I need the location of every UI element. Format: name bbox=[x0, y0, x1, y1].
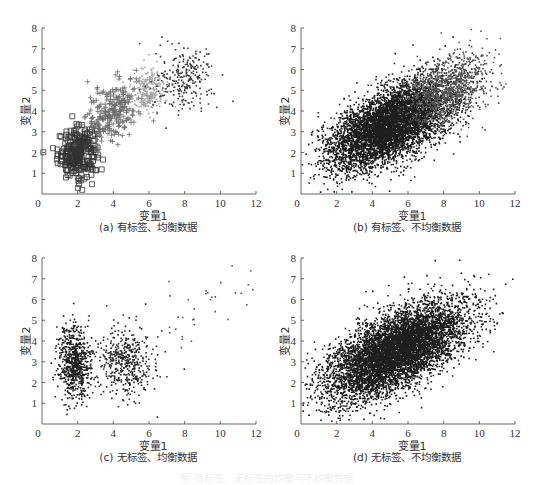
x-tick-label: 6 bbox=[146, 197, 152, 209]
x-tick-label: 10 bbox=[474, 427, 486, 439]
y-tick-label: 1 bbox=[32, 397, 38, 409]
x-tick-label: 10 bbox=[215, 427, 227, 439]
x-tick-label: 4 bbox=[370, 197, 376, 209]
y-tick-label: 7 bbox=[291, 273, 297, 285]
y-tick-label: 5 bbox=[32, 314, 38, 326]
y-tick-label: 1 bbox=[291, 397, 297, 409]
y-tick-label: 1 bbox=[291, 167, 297, 179]
x-tick-label: 0 bbox=[294, 427, 300, 439]
x-tick-label: 0 bbox=[35, 197, 41, 209]
y-tick-label: 5 bbox=[32, 84, 38, 96]
scatter-plot-a: 02468101212345678变量1变量2 bbox=[0, 0, 267, 240]
series-dot bbox=[302, 36, 494, 193]
y-tick-label: 8 bbox=[291, 22, 297, 34]
x-tick-label: 0 bbox=[35, 427, 41, 439]
y-tick-label: 7 bbox=[32, 43, 38, 55]
y-tick-label: 3 bbox=[32, 126, 38, 138]
axes: 02468101212345678变量1变量2 bbox=[19, 22, 262, 223]
y-tick-label: 7 bbox=[291, 43, 297, 55]
x-tick-label: 0 bbox=[294, 197, 300, 209]
data-points bbox=[302, 260, 513, 423]
x-tick-label: 2 bbox=[75, 427, 81, 439]
scatter-plot-d: 02468101212345678变量1变量2 bbox=[259, 230, 526, 470]
data-points bbox=[50, 265, 253, 418]
y-axis-title: 变量2 bbox=[19, 327, 33, 356]
panel-caption-d: (d) 无标签、不均衡数据 bbox=[353, 449, 461, 464]
data-points bbox=[302, 29, 507, 193]
y-tick-label: 1 bbox=[32, 167, 38, 179]
y-tick-label: 7 bbox=[32, 273, 38, 285]
x-tick-label: 6 bbox=[405, 427, 411, 439]
y-tick-label: 5 bbox=[291, 314, 297, 326]
series-dot bbox=[90, 303, 185, 418]
series-dot bbox=[50, 303, 97, 416]
x-tick-label: 8 bbox=[182, 427, 188, 439]
x-tick-label: 6 bbox=[405, 197, 411, 209]
x-tick-label: 4 bbox=[370, 427, 376, 439]
scatter-plot-c: 02468101212345678变量1变量2 bbox=[0, 230, 267, 470]
data-points bbox=[41, 36, 234, 192]
x-tick-label: 12 bbox=[510, 197, 521, 209]
x-tick-label: 2 bbox=[334, 197, 340, 209]
series-dot bbox=[161, 265, 254, 349]
scatter-panel-a: 02468101212345678变量1变量2 (a) 有标签、均衡数据 bbox=[0, 0, 267, 240]
x-tick-label: 10 bbox=[215, 197, 227, 209]
scatter-panel-d: 02468101212345678变量1变量2 (d) 无标签、不均衡数据 bbox=[259, 230, 526, 470]
y-tick-label: 3 bbox=[291, 356, 297, 368]
y-tick-label: 5 bbox=[291, 84, 297, 96]
y-tick-label: 6 bbox=[32, 64, 38, 76]
y-tick-label: 2 bbox=[291, 147, 297, 159]
x-tick-label: 6 bbox=[146, 427, 152, 439]
figure-caption: 图 有标签、无标签的均衡与不均衡数据 bbox=[180, 470, 353, 485]
series-dot bbox=[386, 29, 507, 147]
x-tick-label: 4 bbox=[111, 427, 117, 439]
panel-caption-c: (c) 无标签、均衡数据 bbox=[99, 449, 196, 464]
x-tick-label: 8 bbox=[441, 197, 447, 209]
y-tick-label: 3 bbox=[32, 356, 38, 368]
y-tick-label: 3 bbox=[291, 126, 297, 138]
y-axis-title: 变量2 bbox=[19, 97, 33, 126]
x-tick-label: 8 bbox=[182, 197, 188, 209]
y-tick-label: 6 bbox=[32, 294, 38, 306]
series-dot bbox=[139, 36, 234, 129]
y-tick-label: 2 bbox=[291, 377, 297, 389]
x-tick-label: 2 bbox=[75, 197, 81, 209]
y-tick-label: 6 bbox=[291, 64, 297, 76]
y-tick-label: 6 bbox=[291, 294, 297, 306]
scatter-panel-c: 02468101212345678变量1变量2 (c) 无标签、均衡数据 bbox=[0, 230, 267, 470]
y-axis-title: 变量2 bbox=[278, 97, 292, 126]
y-tick-label: 8 bbox=[291, 252, 297, 264]
x-tick-label: 10 bbox=[474, 197, 486, 209]
x-tick-label: 2 bbox=[334, 427, 340, 439]
series-dot bbox=[302, 260, 513, 423]
scatter-panel-b: 02468101212345678变量1变量2 (b) 有标签、不均衡数据 bbox=[259, 0, 526, 240]
x-tick-label: 12 bbox=[510, 427, 521, 439]
y-axis-title: 变量2 bbox=[278, 327, 292, 356]
y-tick-label: 8 bbox=[32, 252, 38, 264]
y-tick-label: 2 bbox=[32, 147, 38, 159]
y-tick-label: 2 bbox=[32, 377, 38, 389]
y-tick-label: 8 bbox=[32, 22, 38, 34]
scatter-plot-b: 02468101212345678变量1变量2 bbox=[259, 0, 526, 240]
x-tick-label: 8 bbox=[441, 427, 447, 439]
x-tick-label: 4 bbox=[111, 197, 117, 209]
